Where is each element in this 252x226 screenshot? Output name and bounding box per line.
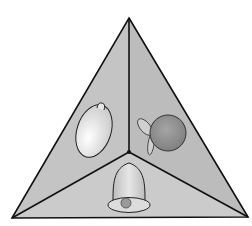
apex-center-dot (127, 150, 131, 154)
pyramid-diagram: triangular pyramid viewed from above (0, 0, 252, 226)
pyramid-svg (0, 0, 252, 226)
